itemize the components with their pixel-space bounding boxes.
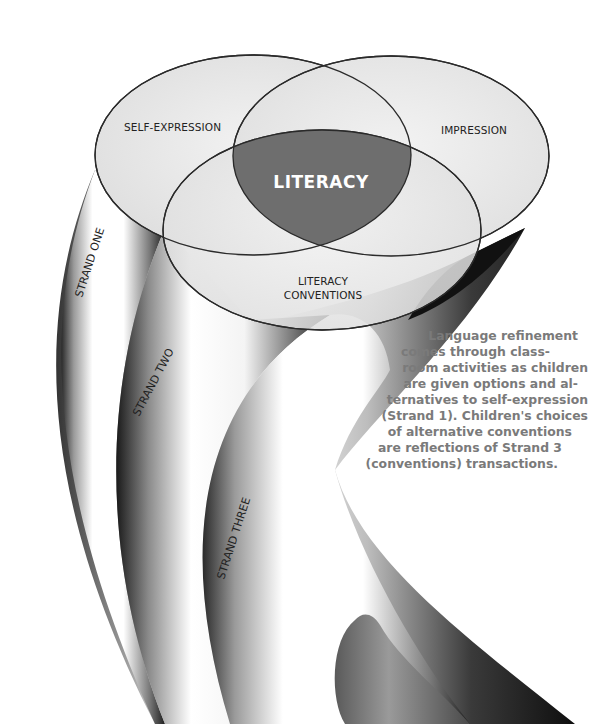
caption-line: comes through class-	[360, 344, 588, 360]
caption-line: (conventions) transactions.	[360, 456, 588, 472]
caption-line: are given options and al-	[360, 376, 588, 392]
label-conventions-line1: LITERACY	[298, 275, 349, 287]
caption-line: room activities as children	[360, 360, 588, 376]
label-conventions-line2: CONVENTIONS	[284, 289, 363, 301]
label-impression: IMPRESSION	[441, 124, 507, 136]
caption-line: Language refinement	[360, 328, 588, 344]
caption-text: Language refinement comes through class-…	[360, 328, 588, 472]
caption-line: (Strand 1). Children's choices	[360, 408, 588, 424]
label-literacy-center: LITERACY	[273, 172, 369, 192]
label-self-expression: SELF-EXPRESSION	[124, 121, 221, 133]
caption-line: of alternative conventions	[360, 424, 588, 440]
caption-line: are reflections of Strand 3	[360, 440, 588, 456]
literacy-strands-diagram: SELF-EXPRESSION IMPRESSION LITERACY LITE…	[0, 0, 600, 724]
caption-line: ternatives to self-expression	[360, 392, 588, 408]
